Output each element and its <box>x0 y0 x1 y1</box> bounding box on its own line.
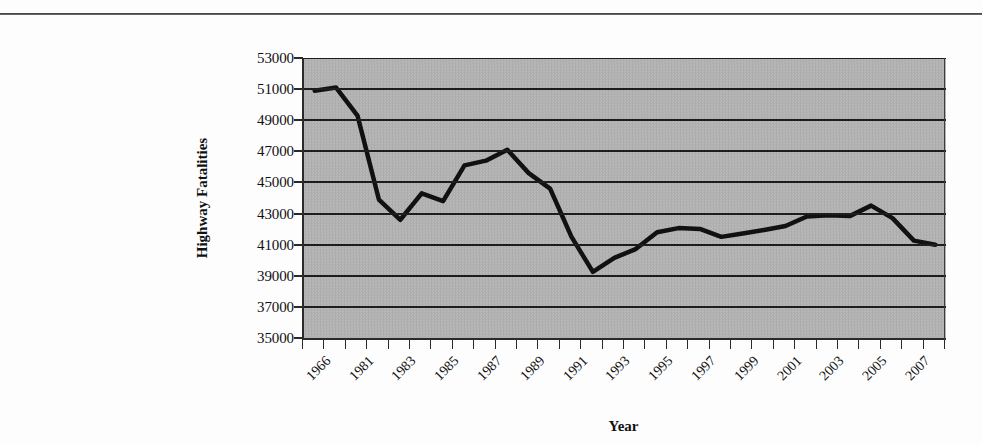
x-axis-tick <box>709 340 710 349</box>
x-axis-tick <box>473 340 474 349</box>
x-axis-tick-label: 1995 <box>645 353 676 384</box>
x-axis-tick-label: 1993 <box>602 353 633 384</box>
x-axis-tick <box>302 340 303 349</box>
plot-area <box>302 58 946 340</box>
gridline <box>304 88 946 90</box>
y-axis-tick-label: 43000 <box>257 205 294 222</box>
x-axis-tick <box>923 340 924 349</box>
y-axis-tick-label: 51000 <box>257 81 294 98</box>
x-axis-tick <box>602 340 603 349</box>
x-axis-tick <box>516 340 517 349</box>
x-axis-tick <box>430 340 431 349</box>
x-axis-tick <box>901 340 902 349</box>
x-axis-tick <box>858 340 859 349</box>
x-axis-tick-label: 1985 <box>431 353 462 384</box>
x-axis-tick <box>687 340 688 349</box>
x-axis-tick-label: 2005 <box>859 353 890 384</box>
y-axis-tick-label: 35000 <box>257 330 294 347</box>
y-axis-tick-label: 41000 <box>257 236 294 253</box>
gridline <box>304 150 946 152</box>
x-axis-tick-label: 1983 <box>388 353 419 384</box>
x-axis-tick <box>388 340 389 349</box>
x-axis-tick <box>880 340 881 349</box>
x-axis-tick <box>837 340 838 349</box>
y-axis-tick-label: 47000 <box>257 143 294 160</box>
x-axis-tick <box>751 340 752 349</box>
x-axis-tick-labels: 1966198119831985198719891991199319951997… <box>302 349 945 409</box>
x-axis-tick-label: 1987 <box>474 353 505 384</box>
x-axis-tick <box>345 340 346 349</box>
x-axis-tick <box>666 340 667 349</box>
y-axis-title-label: Highway Fatalities <box>194 138 211 258</box>
x-axis-title: Year <box>302 418 945 435</box>
x-axis-ticks <box>302 340 945 349</box>
gridline <box>304 181 946 183</box>
x-axis-tick <box>623 340 624 349</box>
x-axis-tick <box>366 340 367 349</box>
gridline <box>304 275 946 277</box>
x-axis-tick-label: 1981 <box>346 353 377 384</box>
y-axis-tick-label: 53000 <box>257 50 294 67</box>
x-axis-tick <box>452 340 453 349</box>
gridline <box>304 306 946 308</box>
x-axis-tick <box>794 340 795 349</box>
x-axis-tick-label: 2003 <box>816 353 847 384</box>
gridline <box>304 119 946 121</box>
x-axis-tick-label: 1989 <box>517 353 548 384</box>
x-axis-tick-label: 1997 <box>688 353 719 384</box>
x-axis-tick <box>495 340 496 349</box>
y-axis-tick-label: 49000 <box>257 112 294 129</box>
y-axis-tick-labels: 5300051000490004700045000430004100039000… <box>228 58 294 338</box>
x-axis-tick-label: 1966 <box>303 353 334 384</box>
y-axis-tick-label: 39000 <box>257 267 294 284</box>
x-axis-tick-label: 2001 <box>774 353 805 384</box>
y-axis-title: Highway Fatalities <box>190 58 214 338</box>
x-axis-tick-label: 1991 <box>560 353 591 384</box>
y-axis-tick-label: 37000 <box>257 298 294 315</box>
y-axis-tick-label: 45000 <box>257 174 294 191</box>
x-axis-tick <box>816 340 817 349</box>
plot-right-border <box>944 58 945 340</box>
gridline <box>304 213 946 215</box>
x-axis-tick <box>559 340 560 349</box>
x-axis-tick-label: 1999 <box>731 353 762 384</box>
highway-fatalities-line-chart: Highway Fatalities 530005100049000470004… <box>0 22 982 445</box>
data-series-line <box>304 58 946 338</box>
x-axis-tick <box>944 340 945 349</box>
top-divider-rule <box>0 13 982 15</box>
x-axis-tick <box>323 340 324 349</box>
gridline <box>304 244 946 246</box>
x-axis-tick <box>730 340 731 349</box>
gridline <box>304 58 946 59</box>
x-axis-tick <box>773 340 774 349</box>
x-axis-tick <box>644 340 645 349</box>
chart-page: Highway Fatalities 530005100049000470004… <box>0 0 982 445</box>
x-axis-tick <box>409 340 410 349</box>
x-axis-tick <box>580 340 581 349</box>
x-axis-tick <box>537 340 538 349</box>
x-axis-tick-label: 2007 <box>902 353 933 384</box>
plot-inner <box>304 58 946 338</box>
